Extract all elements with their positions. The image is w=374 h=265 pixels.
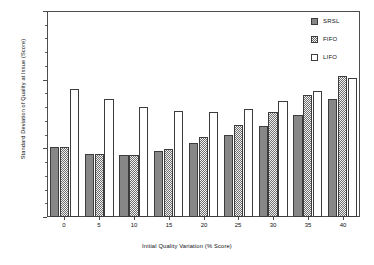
bar-lifo-25 [244, 109, 253, 217]
x-axis-tick-label: 35 [296, 222, 320, 228]
x-axis-tick-label: 10 [122, 222, 146, 228]
x-axis-tick [169, 217, 170, 220]
x-axis-tick [273, 217, 274, 220]
x-axis-tick [238, 217, 239, 220]
bar-fifo-20 [199, 137, 208, 217]
bar-fifo-40 [338, 76, 347, 217]
bar-srsl-15 [154, 151, 163, 217]
legend-entry-srsl: SRSL [311, 16, 339, 26]
x-axis-tick-label: 20 [192, 222, 216, 228]
x-axis-tick [204, 217, 205, 220]
bar-srsl-40 [328, 99, 337, 217]
bar-fifo-15 [164, 149, 173, 217]
bar-fifo-0 [60, 147, 69, 217]
bar-lifo-15 [174, 111, 183, 217]
bar-lifo-40 [348, 78, 357, 217]
legend-label-lifo: LIFO [323, 54, 337, 60]
x-axis-tick [99, 217, 100, 220]
bar-lifo-5 [104, 99, 113, 217]
y-axis-tick [43, 148, 47, 149]
x-axis-tick-label: 0 [52, 222, 76, 228]
bar-srsl-10 [119, 155, 128, 217]
legend-entry-fifo: FIFO [311, 34, 339, 44]
bar-fifo-10 [129, 155, 138, 217]
bar-srsl-25 [224, 135, 233, 217]
legend-label-srsl: SRSL [323, 18, 339, 24]
legend-swatch-fifo-icon [311, 36, 318, 43]
y-axis-minor-tick [45, 203, 47, 204]
bar-lifo-20 [209, 112, 218, 217]
y-axis-minor-tick [45, 66, 47, 67]
y-axis-minor-tick [45, 52, 47, 53]
x-axis-tick-label: 40 [331, 222, 355, 228]
x-axis-tick [343, 217, 344, 220]
x-axis-tick-label: 15 [157, 222, 181, 228]
bar-srsl-20 [189, 143, 198, 217]
x-axis-tick [308, 217, 309, 220]
bar-srsl-30 [259, 126, 268, 217]
y-axis-minor-tick [45, 135, 47, 136]
y-axis-minor-tick [45, 176, 47, 177]
y-axis-title: Standard Deviation of Quality at Issue (… [20, 14, 26, 184]
legend-swatch-srsl-icon [311, 18, 318, 25]
legend-label-fifo: FIFO [323, 36, 337, 42]
bar-fifo-35 [303, 95, 312, 217]
y-axis-tick [43, 11, 47, 12]
legend-entry-lifo: LIFO [311, 52, 339, 62]
bar-lifo-30 [278, 101, 287, 217]
bar-lifo-0 [70, 89, 79, 217]
legend-swatch-lifo-icon [311, 54, 318, 61]
bar-srsl-5 [85, 154, 94, 217]
bar-lifo-35 [313, 91, 322, 217]
y-axis-minor-tick [45, 25, 47, 26]
bar-lifo-10 [139, 107, 148, 217]
chart-legend: SRSL FIFO LIFO [311, 16, 339, 70]
bar-chart: Standard Deviation of Quality at Issue (… [0, 0, 374, 265]
bar-fifo-5 [95, 154, 104, 217]
bar-fifo-25 [234, 125, 243, 217]
y-axis-minor-tick [45, 190, 47, 191]
y-axis-minor-tick [45, 162, 47, 163]
x-axis-tick-label: 30 [261, 222, 285, 228]
y-axis-minor-tick [45, 107, 47, 108]
y-axis-tick [43, 217, 47, 218]
x-axis-tick [134, 217, 135, 220]
bar-fifo-30 [268, 112, 277, 217]
y-axis-minor-tick [45, 38, 47, 39]
x-axis-tick-label: 25 [226, 222, 250, 228]
x-axis-tick [64, 217, 65, 220]
y-axis-tick [43, 80, 47, 81]
x-axis-title: Initial Quality Variation (% Score) [0, 243, 374, 249]
y-axis-minor-tick [45, 93, 47, 94]
y-axis-minor-tick [45, 121, 47, 122]
bar-srsl-35 [293, 115, 302, 217]
x-axis-tick-label: 5 [87, 222, 111, 228]
bar-srsl-0 [50, 147, 59, 217]
